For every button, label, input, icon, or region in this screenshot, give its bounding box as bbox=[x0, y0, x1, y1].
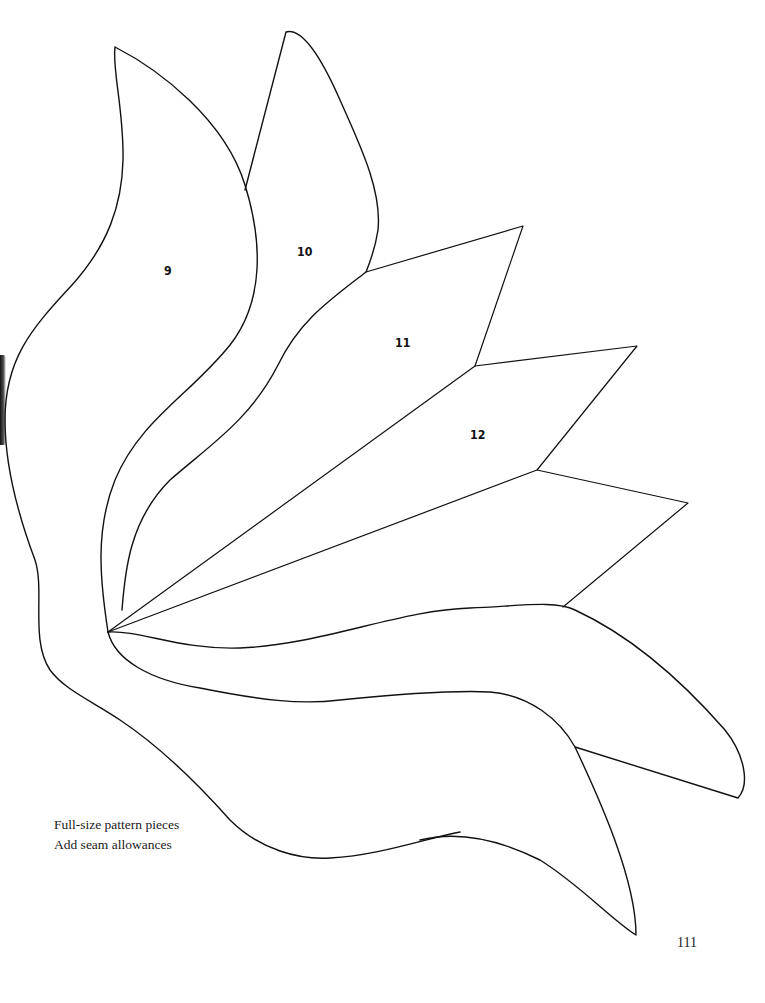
piece-13-outline bbox=[537, 470, 688, 607]
pattern-page: 9 10 11 12 Full-size pattern pieces Add … bbox=[0, 0, 765, 1003]
caption-line-1: Full-size pattern pieces bbox=[54, 815, 179, 835]
piece-label-11: 11 bbox=[395, 335, 410, 350]
piece-11-outline bbox=[108, 226, 523, 632]
caption-line-2: Add seam allowances bbox=[54, 835, 172, 855]
piece-label-9: 9 bbox=[164, 263, 172, 278]
piece-9-outline bbox=[5, 47, 460, 858]
lower-leaf-outline bbox=[108, 604, 744, 798]
piece-10-outline bbox=[122, 32, 378, 610]
bottom-leaf-outline bbox=[108, 632, 636, 935]
piece-label-12: 12 bbox=[470, 427, 485, 442]
piece-label-10: 10 bbox=[297, 244, 312, 259]
page-number: 111 bbox=[677, 935, 697, 951]
